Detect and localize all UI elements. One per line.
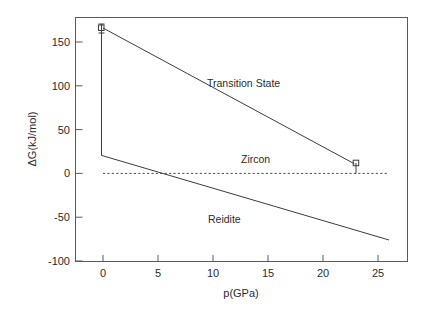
chart-svg: 150 100 50 0 -50 -100 0 5 10 15 20 25 p(…: [0, 0, 435, 317]
y-axis-ticks: [76, 42, 83, 261]
x-tick-label-15: 15: [262, 267, 274, 279]
transition-state-marker-p23: [353, 160, 359, 173]
plot-frame: [76, 18, 408, 262]
reidite-line: [102, 155, 390, 240]
y-axis-title: ΔG(kJ/mol): [26, 111, 38, 166]
annotation-zircon: Zircon: [241, 153, 270, 165]
y-tick-label-neg100: -100: [48, 255, 70, 267]
y-tick-label-neg50: -50: [54, 211, 70, 223]
y-tick-label-100: 100: [52, 80, 70, 92]
y-tick-label-150: 150: [52, 36, 70, 48]
annotation-reidite: Reidite: [208, 213, 241, 225]
x-tick-label-10: 10: [207, 267, 219, 279]
annotation-transition-state: Transition State: [207, 77, 280, 89]
transition-state-marker-p0: [99, 24, 105, 33]
x-tick-label-20: 20: [317, 267, 329, 279]
x-tick-label-25: 25: [372, 267, 384, 279]
x-axis-ticks: [103, 255, 378, 262]
x-axis-title: p(GPa): [223, 287, 258, 299]
y-tick-label-50: 50: [58, 124, 70, 136]
y-tick-label-0: 0: [64, 167, 70, 179]
x-tick-label-0: 0: [100, 267, 106, 279]
x-tick-label-5: 5: [155, 267, 161, 279]
chart-figure: 150 100 50 0 -50 -100 0 5 10 15 20 25 p(…: [0, 0, 435, 317]
transition-state-line: [103, 28, 354, 164]
